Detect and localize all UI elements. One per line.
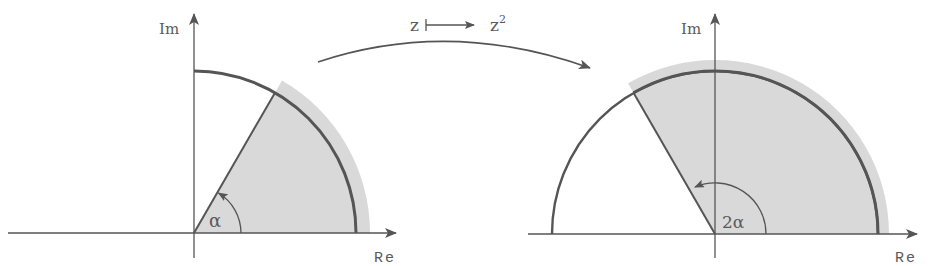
map-from-label: z [410, 15, 419, 35]
left-angle-label: α [209, 210, 221, 231]
right-imag-label: Im [681, 20, 701, 38]
right-complex-plane: 2α Im Re [528, 14, 917, 266]
left-complex-plane: α Im Re [8, 14, 396, 266]
mapping-arrow: z z2 [318, 13, 590, 68]
left-real-label: Re [374, 250, 396, 266]
right-angle-label: 2α [722, 212, 745, 232]
right-real-label: Re [895, 250, 917, 266]
map-to-label: z2 [490, 13, 506, 35]
curved-arrow [318, 41, 590, 68]
conformal-map-diagram: α Im Re z z2 2α Im Re [0, 0, 928, 266]
left-imag-label: Im [159, 20, 179, 38]
